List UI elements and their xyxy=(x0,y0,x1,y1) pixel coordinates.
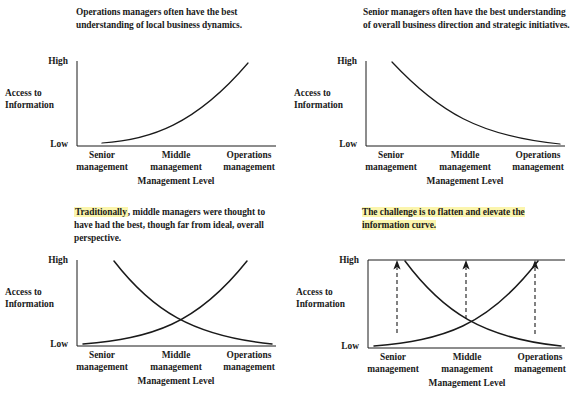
y-high-label: High xyxy=(303,255,359,265)
panel-traditional-view: Traditionally, middle managers were thou… xyxy=(0,198,288,396)
y-low-label: Low xyxy=(12,139,68,149)
x-tick-operations: Operations management xyxy=(206,350,292,373)
x-axis-title: Management Level xyxy=(365,176,565,186)
x-tick-operations-line1: Operations xyxy=(497,352,577,364)
x-tick-operations-line2: management xyxy=(495,162,577,174)
y-high-label: High xyxy=(12,56,68,66)
x-axis-title: Management Level xyxy=(76,376,276,386)
panel-flatten-elevate: The challenge is to flatten and elevate … xyxy=(289,198,577,396)
x-tick-operations-line2: management xyxy=(206,162,292,174)
y-low-label: Low xyxy=(303,341,359,351)
series-line-decreasing xyxy=(114,261,272,344)
y-high-label: High xyxy=(12,255,68,265)
x-tick-operations-line2: management xyxy=(497,364,577,376)
x-tick-operations-line1: Operations xyxy=(206,350,292,362)
y-axis-title-line1: Access to xyxy=(5,287,42,297)
series-line-decreasing xyxy=(405,261,561,346)
y-high-label: High xyxy=(301,56,357,66)
y-axis-title-line2: Information xyxy=(5,100,54,110)
x-tick-operations: Operations management xyxy=(206,150,292,173)
x-tick-operations: Operations management xyxy=(495,150,577,173)
series-line-increasing xyxy=(83,261,247,344)
series-line-increasing xyxy=(102,63,248,143)
x-axis-title: Management Level xyxy=(367,378,567,388)
series-line-decreasing xyxy=(392,62,560,144)
dashed-up-arrow-senior-icon xyxy=(393,260,400,333)
x-tick-operations-line2: management xyxy=(206,362,292,374)
y-axis-title-line1: Access to xyxy=(294,88,331,98)
x-tick-operations: Operations management xyxy=(497,352,577,375)
y-axis-title-line1: Access to xyxy=(296,287,333,297)
x-tick-operations-line1: Operations xyxy=(206,150,292,162)
panel-senior-managers: Senior managers often have the best unde… xyxy=(289,0,577,198)
y-low-label: Low xyxy=(12,339,68,349)
dashed-up-arrow-operations-icon xyxy=(531,260,538,334)
dashed-up-arrow-middle-icon xyxy=(462,260,469,319)
figure-grid: Operations managers often have the best … xyxy=(0,0,577,396)
panel-operations-managers: Operations managers often have the best … xyxy=(0,0,288,198)
x-tick-operations-line1: Operations xyxy=(495,150,577,162)
series-line-increasing xyxy=(374,261,538,346)
y-axis-title-line2: Information xyxy=(296,299,345,309)
y-axis-title-line1: Access to xyxy=(5,88,42,98)
y-axis-title-line2: Information xyxy=(5,299,54,309)
y-axis-title-line2: Information xyxy=(294,100,343,110)
x-axis-title: Management Level xyxy=(76,176,276,186)
y-low-label: Low xyxy=(301,139,357,149)
